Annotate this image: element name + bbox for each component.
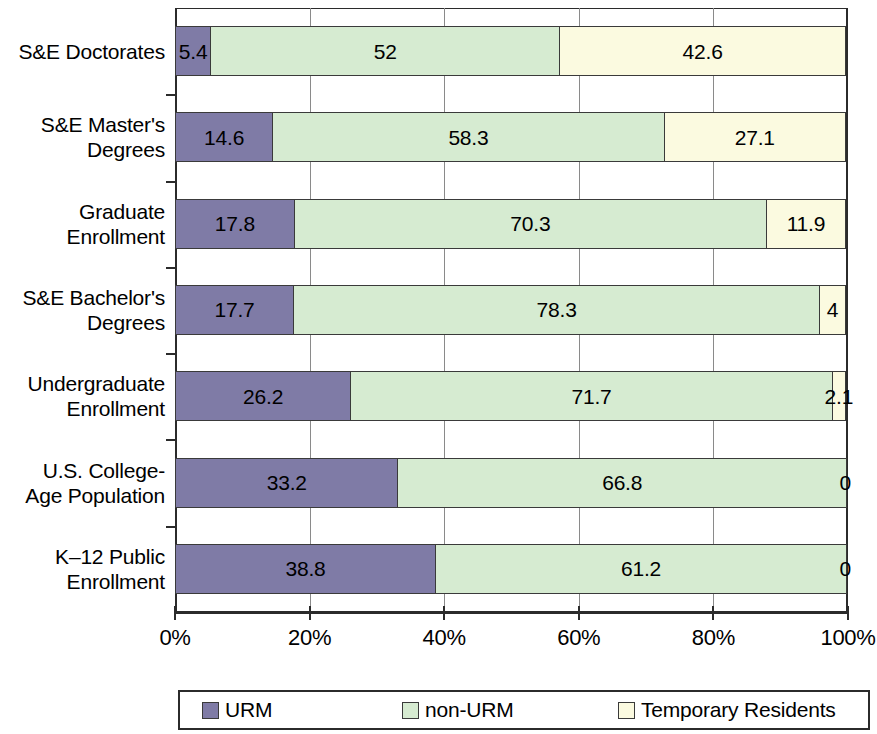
stacked-bar: 38.861.20 — [175, 544, 848, 594]
bar-value-label: 66.8 — [602, 472, 642, 493]
bar-segment-non-urm: 66.8 — [397, 458, 847, 508]
x-axis-tick — [847, 606, 849, 620]
category-label-row: U.S. College-Age Population — [0, 439, 175, 525]
bar-value-label: 58.3 — [448, 127, 488, 148]
x-axis-tick — [174, 606, 176, 620]
bar-value-label: 70.3 — [510, 213, 550, 234]
bar-value-label: 27.1 — [735, 127, 775, 148]
category-label: UndergraduateEnrollment — [7, 371, 175, 421]
bar-segment-temporary-residents: 4 — [819, 285, 846, 335]
bar-value-label: 61.2 — [621, 558, 661, 579]
x-axis-tick — [578, 606, 580, 620]
chart-row: 14.658.327.1 — [175, 94, 848, 180]
legend-label-non-urm: non-URM — [425, 698, 513, 722]
bar-segment-urm: 5.4 — [175, 26, 211, 76]
bar-segment-non-urm: 52 — [210, 26, 560, 76]
bar-value-label: 71.7 — [572, 386, 612, 407]
stacked-bar: 14.658.327.1 — [175, 112, 848, 162]
bar-value-label: 0 — [840, 472, 851, 493]
y-axis-tick — [166, 353, 176, 355]
x-axis-tick-label: 60% — [557, 625, 600, 651]
bar-segment-non-urm: 71.7 — [350, 371, 833, 421]
x-axis-tick — [443, 606, 445, 620]
bar-value-label: 78.3 — [537, 299, 577, 320]
bar-value-label: 0 — [840, 558, 851, 579]
category-label: S&E Master'sDegrees — [7, 112, 175, 162]
y-axis-tick — [166, 526, 176, 528]
category-label: S&E Bachelor'sDegrees — [7, 285, 175, 335]
legend-item-non-urm: non-URM — [402, 698, 513, 722]
category-label: U.S. College-Age Population — [7, 458, 175, 508]
bar-segment-non-urm: 78.3 — [293, 285, 820, 335]
stacked-bar-chart: S&E DoctoratesS&E Master'sDegreesGraduat… — [0, 0, 877, 734]
legend-swatch-temporary-residents — [618, 702, 635, 719]
chart-row: 33.266.80 — [175, 439, 848, 525]
category-label-row: GraduateEnrollment — [0, 181, 175, 267]
bar-value-label: 5.4 — [179, 41, 208, 62]
bar-value-label: 38.8 — [286, 558, 326, 579]
x-axis-tick — [309, 606, 311, 620]
bar-segment-urm: 26.2 — [175, 371, 351, 421]
bar-value-label: 4 — [827, 299, 838, 320]
bar-value-label: 52 — [374, 41, 397, 62]
chart-row: 17.870.311.9 — [175, 181, 848, 267]
category-label-row: UndergraduateEnrollment — [0, 353, 175, 439]
category-label-row: S&E Doctorates — [0, 8, 175, 94]
bar-segment-temporary-residents: 27.1 — [664, 112, 846, 162]
category-label: K–12 PublicEnrollment — [7, 544, 175, 594]
x-axis-tick-label: 0% — [159, 625, 190, 651]
x-axis-line — [175, 612, 848, 614]
bar-value-label: 14.6 — [204, 127, 244, 148]
bar-value-label: 17.8 — [215, 213, 255, 234]
bar-segment-non-urm: 70.3 — [294, 199, 767, 249]
legend-label-temporary-residents: Temporary Residents — [641, 698, 836, 722]
legend-swatch-non-urm — [402, 702, 419, 719]
legend-item-urm: URM — [202, 698, 272, 722]
bar-segment-temporary-residents: 11.9 — [766, 199, 846, 249]
category-label: S&E Doctorates — [7, 39, 175, 64]
stacked-bar: 17.778.34 — [175, 285, 848, 335]
legend-item-temporary-residents: Temporary Residents — [618, 698, 836, 722]
category-label-row: S&E Bachelor'sDegrees — [0, 267, 175, 353]
bar-value-label: 17.7 — [215, 299, 255, 320]
y-axis-tick — [166, 181, 176, 183]
chart-row: 5.45242.6 — [175, 8, 848, 94]
bar-segment-urm: 17.7 — [175, 285, 294, 335]
x-axis-tick-label: 80% — [692, 625, 735, 651]
bar-value-label: 33.2 — [267, 472, 307, 493]
stacked-bar: 33.266.80 — [175, 458, 848, 508]
bar-segment-urm: 38.8 — [175, 544, 436, 594]
bar-segment-non-urm: 58.3 — [272, 112, 664, 162]
legend-swatch-urm — [202, 702, 219, 719]
bar-segment-urm: 14.6 — [175, 112, 273, 162]
category-label-row: K–12 PublicEnrollment — [0, 526, 175, 612]
chart-row: 38.861.20 — [175, 526, 848, 612]
stacked-bar: 17.870.311.9 — [175, 199, 848, 249]
category-label-row: S&E Master'sDegrees — [0, 94, 175, 180]
bar-value-label: 26.2 — [243, 386, 283, 407]
bar-value-label: 11.9 — [787, 213, 826, 234]
category-label: GraduateEnrollment — [7, 199, 175, 249]
legend-label-urm: URM — [225, 698, 272, 722]
stacked-bar: 26.271.72.1 — [175, 371, 848, 421]
bar-segment-temporary-residents: 42.6 — [559, 26, 846, 76]
chart-row: 26.271.72.1 — [175, 353, 848, 439]
bar-segment-urm: 33.2 — [175, 458, 398, 508]
x-axis-tick-label: 40% — [423, 625, 466, 651]
bar-segment-non-urm: 61.2 — [435, 544, 847, 594]
x-axis-tick — [712, 606, 714, 620]
chart-row: 17.778.34 — [175, 267, 848, 353]
bar-segment-temporary-residents: 2.1 — [832, 371, 846, 421]
y-axis-tick — [166, 267, 176, 269]
bar-value-label: 2.1 — [825, 386, 854, 407]
y-axis-tick — [166, 94, 176, 96]
x-axis-tick-label: 100% — [820, 625, 875, 651]
x-axis-tick-label: 20% — [288, 625, 331, 651]
y-axis-tick — [166, 439, 176, 441]
bar-value-label: 42.6 — [683, 41, 723, 62]
chart-legend: URM non-URM Temporary Residents — [178, 690, 870, 730]
stacked-bar: 5.45242.6 — [175, 26, 848, 76]
plot-area: 5.45242.614.658.327.117.870.311.917.778.… — [175, 8, 848, 612]
category-axis-labels: S&E DoctoratesS&E Master'sDegreesGraduat… — [0, 8, 175, 612]
bar-segment-urm: 17.8 — [175, 199, 295, 249]
